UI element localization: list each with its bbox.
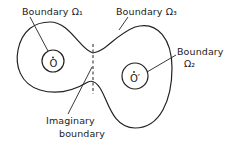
two-lobe-domain-diagram: O O′ Boundary Ω₁ Boundary Ω₃ Boundary Ω₂… <box>0 0 236 148</box>
label-boundary-omega2-line1: Boundary <box>177 46 224 57</box>
outer-boundary-omega3 <box>17 22 172 128</box>
label-imaginary-line1: Imaginary <box>46 115 95 126</box>
leader-imaginary <box>68 67 92 114</box>
label-boundary-omega1: Boundary Ω₁ <box>22 6 83 17</box>
label-boundary-omega3: Boundary Ω₃ <box>116 6 177 17</box>
point-o-prime-label: O′ <box>130 73 141 84</box>
label-boundary-omega2-line2: Ω₂ <box>184 58 195 69</box>
label-imaginary-line2: boundary <box>59 128 105 139</box>
point-o-label: O <box>50 58 58 69</box>
leader-omega3 <box>119 17 128 30</box>
